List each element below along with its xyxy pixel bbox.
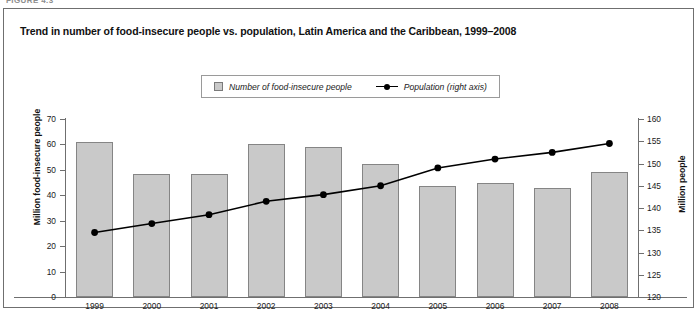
x-axis-label-2002: 2002 [238, 302, 295, 310]
y-axis-right-tick [639, 230, 644, 231]
y-axis-left-tick [60, 272, 65, 273]
population-point-2003 [320, 191, 327, 198]
y-axis-right-tick-label: 120 [647, 293, 669, 301]
population-point-2005 [434, 165, 441, 172]
chart-title: Trend in number of food-insecure people … [20, 25, 516, 37]
population-line-series [66, 119, 638, 297]
chart-legend: Number of food-insecure people Populatio… [201, 75, 500, 98]
population-polyline [95, 143, 610, 232]
x-axis-label-2000: 2000 [123, 302, 180, 310]
legend-item-food-insecure-people: Number of food-insecure people [214, 82, 352, 92]
y-axis-left-tick-label: 0 [36, 293, 56, 301]
y-axis-left-tick [60, 246, 65, 247]
y-axis-right-tick [639, 208, 644, 209]
x-axis-label-2006: 2006 [466, 302, 523, 310]
y-axis-left-tick-label: 50 [36, 166, 56, 174]
y-axis-left-tick-label: 20 [36, 242, 56, 250]
legend-label-population: Population (right axis) [404, 82, 487, 92]
population-point-2004 [377, 182, 384, 189]
y-axis-right-tick [639, 253, 644, 254]
y-axis-right-tick-label: 160 [647, 115, 669, 123]
population-point-2000 [148, 220, 155, 227]
y-axis-right-tick-label: 140 [647, 204, 669, 212]
y-axis-right-tick-label: 145 [647, 182, 669, 190]
y-axis-right-tick-label: 125 [647, 271, 669, 279]
figure-frame: Trend in number of food-insecure people … [3, 8, 694, 308]
y-axis-left-tick-label: 40 [36, 191, 56, 199]
y-axis-left-tick-label: 70 [36, 115, 56, 123]
y-axis-right-tick-label: 130 [647, 249, 669, 257]
y-axis-left-tick [60, 221, 65, 222]
population-point-2008 [606, 140, 613, 147]
y-axis-left-tick [60, 195, 65, 196]
x-axis-label-2005: 2005 [409, 302, 466, 310]
x-axis-label-2001: 2001 [180, 302, 237, 310]
population-point-2002 [263, 198, 270, 205]
y-axis-left-tick-label: 60 [36, 140, 56, 148]
x-axis-label-2004: 2004 [352, 302, 409, 310]
y-axis-right-tick [639, 186, 644, 187]
y-axis-right-tick [639, 141, 644, 142]
y-axis-right-tick [639, 119, 644, 120]
y-axis-left-tick [60, 297, 65, 298]
y-axis-right-tick [639, 297, 644, 298]
x-axis-label-2008: 2008 [581, 302, 638, 310]
y-axis-right-tick [639, 275, 644, 276]
y-axis-right-tick [639, 164, 644, 165]
legend-item-population: Population (right axis) [376, 82, 487, 92]
y-axis-left-tick [60, 170, 65, 171]
population-point-2007 [549, 149, 556, 156]
x-axis-label-1999: 1999 [66, 302, 123, 310]
figure-container: FIGURE 4.3 Trend in number of food-insec… [0, 0, 697, 310]
population-point-1999 [91, 229, 98, 236]
y-axis-right-tick-label: 150 [647, 160, 669, 168]
y-axis-right-tick-label: 155 [647, 137, 669, 145]
population-point-2001 [206, 211, 213, 218]
y-axis-left-tick-label: 10 [36, 268, 56, 276]
y-axis-left-tick-label: 30 [36, 217, 56, 225]
x-axis-label-2007: 2007 [524, 302, 581, 310]
figure-number-label: FIGURE 4.3 [6, 0, 54, 5]
x-axis-label-2003: 2003 [295, 302, 352, 310]
y-axis-right-title: Million people [677, 109, 687, 259]
x-axis-line [14, 297, 687, 298]
y-axis-right-tick-label: 135 [647, 226, 669, 234]
legend-bar-swatch-icon [214, 82, 223, 91]
population-point-2006 [492, 156, 499, 163]
legend-label-food-insecure-people: Number of food-insecure people [229, 82, 352, 92]
y-axis-left-tick [60, 119, 65, 120]
y-axis-left-tick [60, 144, 65, 145]
legend-line-marker-icon [376, 82, 398, 91]
